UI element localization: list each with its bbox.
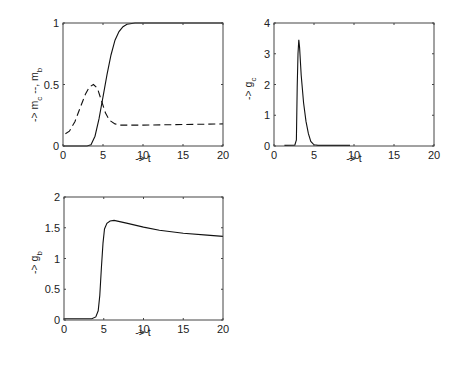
y-tick-label: 3	[264, 48, 270, 60]
y-tick-label: 1	[53, 17, 59, 29]
y-tick-label: 4	[264, 17, 270, 29]
ylabel-tl-main: -> m	[28, 100, 40, 122]
x-tick-label: 20	[428, 149, 440, 161]
y-tick-label: 2	[264, 79, 270, 91]
y-tick-label: 0.5	[44, 79, 59, 91]
x-tick-label: 5	[100, 149, 106, 161]
y-tick-label: 0	[53, 140, 59, 152]
plot-mc-mb: 0510152000.51	[44, 17, 229, 161]
plot-gb: 0510152000.511.52	[45, 191, 229, 335]
y-tick-label: 1	[54, 253, 60, 265]
x-tick-label: 20	[217, 323, 229, 335]
series-g-b	[64, 220, 223, 318]
xlabel-tr: -> t	[346, 152, 362, 164]
figure: 0510152000.51 0510152001234 0510152000.5…	[0, 0, 456, 367]
plot-gc: 0510152001234	[264, 17, 440, 161]
y-tick-label: 0	[264, 140, 270, 152]
y-tick-label: 2	[54, 191, 60, 203]
ylabel-tl: -> mc --, mb	[28, 67, 44, 122]
x-tick-label: 0	[271, 149, 277, 161]
ylabel-tr: -> gc	[242, 78, 258, 100]
x-tick-label: 15	[177, 323, 189, 335]
ylabel-tr-main: -> g	[242, 81, 254, 100]
y-tick-label: 1	[264, 109, 270, 121]
x-tick-label: 5	[101, 323, 107, 335]
series-m-b	[63, 23, 223, 146]
axes-frame	[64, 197, 223, 320]
x-tick-label: 0	[61, 323, 67, 335]
y-tick-label: 0	[54, 314, 60, 326]
y-tick-label: 0.5	[45, 283, 60, 295]
x-tick-label: 0	[60, 149, 66, 161]
x-tick-label: 20	[217, 149, 229, 161]
ylabel-tl-sub2: b	[35, 67, 44, 72]
x-tick-label: 15	[177, 149, 189, 161]
series-m-c	[65, 85, 223, 134]
ylabel-tr-sub: c	[249, 78, 258, 82]
ylabel-bl: -> gb	[28, 251, 44, 274]
ylabel-bl-main: -> g	[28, 255, 40, 274]
axes-frame	[274, 23, 434, 146]
axes-frame	[63, 23, 223, 146]
xlabel-bl: -> t	[135, 326, 151, 338]
x-tick-label: 15	[388, 149, 400, 161]
y-tick-label: 1.5	[45, 222, 60, 234]
ylabel-bl-sub: b	[35, 251, 44, 256]
xlabel-tl: -> t	[135, 152, 151, 164]
ylabel-tl-mid: --, m	[28, 72, 40, 97]
series-g-c	[284, 40, 350, 145]
x-tick-label: 5	[311, 149, 317, 161]
